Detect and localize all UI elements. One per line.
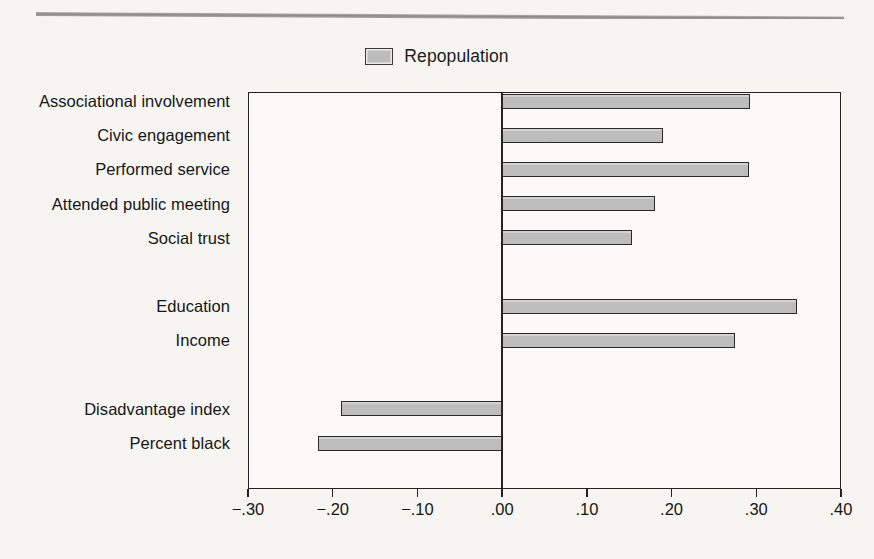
x-tick-6 <box>756 489 757 497</box>
bar-civic-engagement <box>502 128 663 143</box>
x-tick-label-2: −.10 <box>401 500 434 519</box>
bar-associational-involvement <box>502 94 750 109</box>
y-label-percent-black: Percent black <box>129 435 230 452</box>
zero-reference-line <box>501 92 503 489</box>
x-tick-label-3: .00 <box>491 500 514 519</box>
x-tick-1 <box>332 489 333 497</box>
x-tick-2 <box>417 489 418 497</box>
x-tick-4 <box>586 489 587 497</box>
bar-disadvantage-index <box>341 401 502 416</box>
bar-chart: Associational involvement Civic engageme… <box>0 0 874 559</box>
y-axis-label-column: Associational involvement Civic engageme… <box>0 92 240 489</box>
x-tick-3 <box>501 489 502 497</box>
y-label-disadvantage-index: Disadvantage index <box>84 401 230 418</box>
bar-education <box>502 299 797 314</box>
x-tick-label-6: .30 <box>745 500 768 519</box>
x-tick-label-1: −.20 <box>316 500 349 519</box>
x-tick-0 <box>247 489 248 497</box>
bar-social-trust <box>502 230 632 245</box>
y-label-performed-service: Performed service <box>95 161 230 178</box>
y-label-associational-involvement: Associational involvement <box>39 93 230 110</box>
x-tick-7 <box>840 489 841 497</box>
x-tick-5 <box>671 489 672 497</box>
y-label-education: Education <box>156 298 230 315</box>
x-tick-label-5: .20 <box>660 500 683 519</box>
y-label-income: Income <box>176 332 230 349</box>
y-label-social-trust: Social trust <box>148 230 230 247</box>
x-tick-label-7: .40 <box>830 500 853 519</box>
bar-attended-public-meeting <box>502 196 654 211</box>
y-label-attended-public-meeting: Attended public meeting <box>52 196 230 213</box>
plot-area <box>248 92 841 489</box>
bar-performed-service <box>502 162 749 177</box>
bar-income <box>502 333 735 348</box>
x-tick-label-4: .10 <box>575 500 598 519</box>
bar-percent-black <box>318 436 502 451</box>
x-tick-label-0: −.30 <box>232 500 265 519</box>
y-label-civic-engagement: Civic engagement <box>97 127 230 144</box>
